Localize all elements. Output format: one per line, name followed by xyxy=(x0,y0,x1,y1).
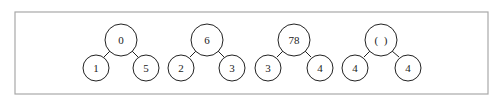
left-child-label: 2 xyxy=(178,62,184,74)
left-child-label: 1 xyxy=(93,62,99,74)
root-label: ( ) xyxy=(375,34,388,47)
right-child-label: 3 xyxy=(229,62,235,74)
diagram-frame xyxy=(15,12,488,94)
root-label: 0 xyxy=(118,34,124,46)
right-child-label: 4 xyxy=(405,62,411,74)
root-label: 6 xyxy=(204,34,210,46)
right-child-label: 5 xyxy=(143,62,149,74)
root-label: 78 xyxy=(289,34,301,46)
tree-diagram: 0 1 5 6 2 3 78 3 4 ( ) 4 4 xyxy=(0,0,495,101)
left-child-label: 3 xyxy=(265,62,271,74)
right-child-label: 4 xyxy=(317,62,323,74)
left-child-label: 4 xyxy=(352,62,358,74)
